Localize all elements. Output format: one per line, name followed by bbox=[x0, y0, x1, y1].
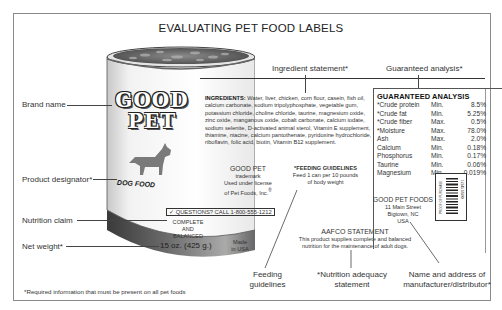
diagonal-leader-lines bbox=[0, 0, 502, 310]
manufacturer-callout-line-1: Name and address of bbox=[397, 270, 497, 280]
callout-feeding-guidelines: Feeding guidelines bbox=[240, 270, 295, 290]
feeding-callout-line-1: Feeding bbox=[240, 270, 295, 280]
manufacturer-callout-line-2: manufacturer/distributor* bbox=[397, 280, 497, 290]
feeding-callout-line-2: guidelines bbox=[240, 280, 295, 290]
adequacy-callout-line-1: *Nutrition adequacy bbox=[312, 270, 392, 280]
callout-nutrition-adequacy: *Nutrition adequacy statement bbox=[312, 270, 392, 290]
adequacy-callout-line-2: statement bbox=[312, 280, 392, 290]
callout-manufacturer: Name and address of manufacturer/distrib… bbox=[397, 270, 497, 290]
footnote: *Required information that must be prese… bbox=[24, 288, 186, 295]
